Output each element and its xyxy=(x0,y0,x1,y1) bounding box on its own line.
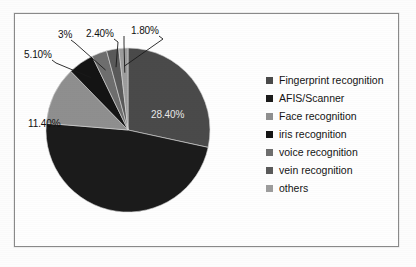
chart-legend: Fingerprint recognitionAFIS/ScannerFace … xyxy=(266,71,398,197)
slice-value-label: 28.40% xyxy=(151,109,184,120)
legend-item: vein recognition xyxy=(266,161,398,179)
legend-item: others xyxy=(266,179,398,197)
legend-item-label: iris recognition xyxy=(279,128,347,140)
legend-swatch-icon xyxy=(266,95,273,102)
slice-value-label: 1.80% xyxy=(131,25,159,36)
legend-item-label: Face recognition xyxy=(279,110,357,122)
legend-swatch-icon xyxy=(266,185,273,192)
screenshot-root: 28.40%11.40%5.10%3%2.40%1.80% Fingerprin… xyxy=(0,0,416,267)
legend-item: voice recognition xyxy=(266,143,398,161)
legend-item: AFIS/Scanner xyxy=(266,89,398,107)
pie-slice-group xyxy=(46,48,210,212)
legend-swatch-icon xyxy=(266,77,273,84)
slice-value-label: 3% xyxy=(58,29,72,40)
slice-value-label: 11.40% xyxy=(28,118,61,129)
legend-item: Face recognition xyxy=(266,107,398,125)
legend-item: iris recognition xyxy=(266,125,398,143)
legend-swatch-icon xyxy=(266,149,273,156)
slice-value-label: 2.40% xyxy=(86,28,114,39)
legend-item-label: Fingerprint recognition xyxy=(279,74,383,86)
legend-swatch-icon xyxy=(266,167,273,174)
legend-swatch-icon xyxy=(266,113,273,120)
legend-item-label: vein recognition xyxy=(279,164,353,176)
legend-item: Fingerprint recognition xyxy=(266,71,398,89)
legend-item-label: AFIS/Scanner xyxy=(279,92,344,104)
slice-value-label: 5.10% xyxy=(24,49,52,60)
legend-swatch-icon xyxy=(266,131,273,138)
legend-item-label: voice recognition xyxy=(279,146,358,158)
legend-item-label: others xyxy=(279,182,308,194)
